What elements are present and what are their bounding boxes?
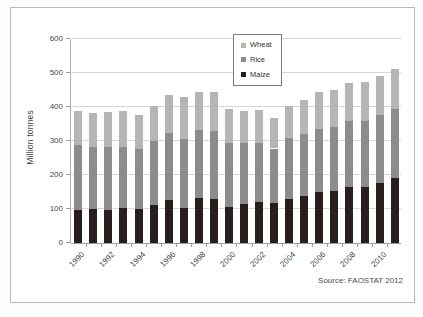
bar-2000-wheat-segment — [225, 109, 233, 143]
x-tick-label-2004: 2004 — [270, 250, 298, 278]
x-tick-11 — [236, 244, 237, 247]
legend: WheatRiceMaize — [233, 34, 282, 86]
x-tick-label-1990: 1990 — [59, 250, 87, 278]
bar-1998-maize-segment — [195, 198, 203, 243]
x-tick-16 — [312, 244, 313, 247]
chart-screenshot: Million tonnes 0100200300400500600199019… — [0, 0, 423, 317]
bar-1992-maize-segment — [104, 210, 112, 243]
x-tick-label-1992: 1992 — [89, 250, 117, 278]
x-tick-7 — [176, 244, 177, 247]
x-tick-20 — [372, 244, 373, 247]
bar-1998-rice-segment — [195, 130, 203, 199]
x-tick-label-1996: 1996 — [149, 250, 177, 278]
bar-2006-maize-segment — [315, 192, 323, 243]
x-tick-19 — [357, 244, 358, 247]
x-tick-12 — [252, 244, 253, 247]
x-tick-9 — [206, 244, 207, 247]
bar-2011-wheat-segment — [391, 69, 399, 109]
y-tick-300 — [66, 140, 70, 141]
x-tick-8 — [191, 244, 192, 247]
y-tick-500 — [66, 72, 70, 73]
y-tick-label-500: 500 — [27, 68, 63, 77]
bar-2004-maize-segment — [285, 199, 293, 243]
bar-2010-wheat-segment — [376, 76, 384, 114]
x-tick-2 — [101, 244, 102, 247]
bar-1991-rice-segment — [89, 147, 97, 209]
bar-2007-maize-segment — [330, 191, 338, 243]
bar-2011-rice-segment — [391, 109, 399, 178]
x-tick-5 — [146, 244, 147, 247]
bar-1995-rice-segment — [150, 141, 158, 205]
legend-item-rice: Rice — [241, 56, 281, 64]
bar-2009-wheat-segment — [361, 82, 369, 121]
bar-2007-rice-segment — [330, 127, 338, 191]
bar-2011-maize-segment — [391, 178, 399, 243]
bar-1992-wheat-segment — [104, 112, 112, 147]
bar-2000-rice-segment — [225, 143, 233, 206]
bar-2003-rice-segment — [270, 149, 278, 204]
y-tick-label-600: 600 — [27, 34, 63, 43]
y-tick-label-200: 200 — [27, 170, 63, 179]
x-tick-1 — [86, 244, 87, 247]
y-tick-200 — [66, 174, 70, 175]
y-tick-label-0: 0 — [27, 238, 63, 247]
bar-2009-maize-segment — [361, 187, 369, 243]
bar-1990-maize-segment — [74, 210, 82, 243]
x-tick-14 — [282, 244, 283, 247]
bar-1997-rice-segment — [180, 139, 188, 208]
bar-2007-wheat-segment — [330, 90, 338, 127]
bar-2009-rice-segment — [361, 121, 369, 187]
bar-1992-rice-segment — [104, 147, 112, 211]
y-axis-line — [70, 39, 71, 243]
bar-1999-maize-segment — [210, 199, 218, 243]
bar-1994-rice-segment — [135, 149, 143, 209]
bar-1999-rice-segment — [210, 131, 218, 199]
y-tick-0 — [66, 242, 70, 243]
bar-2006-rice-segment — [315, 129, 323, 192]
x-tick-21 — [387, 244, 388, 247]
bar-1997-maize-segment — [180, 208, 188, 243]
bar-1999-wheat-segment — [210, 92, 218, 131]
bar-2004-rice-segment — [285, 138, 293, 200]
bar-2002-rice-segment — [255, 143, 263, 203]
bar-1991-wheat-segment — [89, 113, 97, 146]
bar-1996-wheat-segment — [165, 95, 173, 132]
bar-1990-rice-segment — [74, 145, 82, 210]
chart-frame: Million tonnes 0100200300400500600199019… — [10, 7, 415, 303]
bar-2008-wheat-segment — [345, 83, 353, 121]
y-tick-label-100: 100 — [27, 204, 63, 213]
bar-2002-maize-segment — [255, 202, 263, 243]
bar-2005-maize-segment — [300, 196, 308, 243]
bar-2001-rice-segment — [240, 143, 248, 204]
legend-swatch-maize — [241, 72, 246, 77]
x-tick-6 — [161, 244, 162, 247]
bar-1998-wheat-segment — [195, 92, 203, 130]
bar-2003-maize-segment — [270, 203, 278, 243]
bar-2006-wheat-segment — [315, 92, 323, 129]
x-tick-13 — [267, 244, 268, 247]
bar-2002-wheat-segment — [255, 110, 263, 142]
legend-swatch-rice — [241, 57, 246, 62]
x-tick-label-1994: 1994 — [119, 250, 147, 278]
bar-2005-wheat-segment — [300, 100, 308, 134]
x-tick-4 — [131, 244, 132, 247]
legend-label-rice: Rice — [250, 56, 265, 64]
y-tick-400 — [66, 106, 70, 107]
bar-1994-maize-segment — [135, 209, 143, 243]
legend-swatch-wheat — [241, 43, 246, 48]
y-tick-label-300: 300 — [27, 136, 63, 145]
bar-2003-wheat-segment — [270, 118, 278, 148]
source-note: Source: FAOSTAT 2012 — [318, 276, 403, 285]
bar-1994-wheat-segment — [135, 115, 143, 149]
x-tick-18 — [342, 244, 343, 247]
bar-1997-wheat-segment — [180, 97, 188, 138]
x-tick-label-2006: 2006 — [300, 250, 328, 278]
x-tick-10 — [221, 244, 222, 247]
x-tick-3 — [116, 244, 117, 247]
y-tick-100 — [66, 208, 70, 209]
bar-1991-maize-segment — [89, 209, 97, 243]
y-tick-600 — [66, 38, 70, 39]
bar-1993-rice-segment — [119, 147, 127, 207]
bar-2010-rice-segment — [376, 115, 384, 183]
bar-2005-rice-segment — [300, 134, 308, 196]
